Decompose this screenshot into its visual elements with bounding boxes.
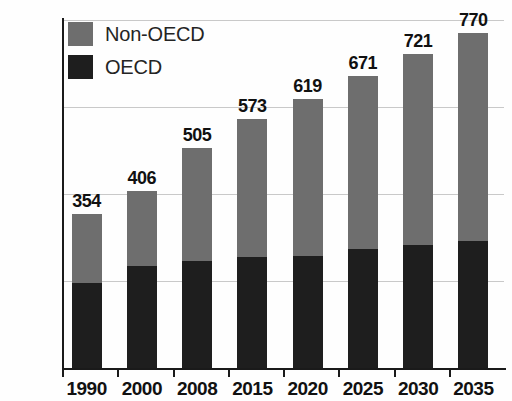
bar-segment-oecd-1990: [72, 283, 102, 368]
x-tick-mark-2000: [117, 368, 119, 377]
legend-item-oecd: OECD: [68, 55, 205, 79]
bar-segment-oecd-2020: [293, 256, 323, 368]
bar-2000[interactable]: 406: [127, 191, 157, 368]
legend-label-oecd: OECD: [105, 56, 162, 79]
bar-segment-non-oecd-2025: [348, 76, 378, 249]
bar-segment-oecd-2035: [458, 241, 488, 368]
bar-segment-oecd-2000: [127, 266, 157, 368]
bar-segment-oecd-2030: [403, 245, 433, 368]
bar-2025[interactable]: 671: [348, 76, 378, 368]
x-tick-mark-2015: [228, 368, 230, 377]
x-tick-label-2025: 2025: [343, 378, 383, 400]
bar-2020[interactable]: 619: [293, 99, 323, 368]
bar-value-label-1990: 354: [72, 191, 101, 212]
bar-segment-non-oecd-2015: [237, 119, 267, 257]
legend-item-non-oecd: Non-OECD: [68, 22, 205, 46]
bar-segment-non-oecd-2020: [293, 99, 323, 256]
bar-2030[interactable]: 721: [403, 54, 433, 368]
y-axis-line: [62, 18, 64, 370]
x-tick-label-2015: 2015: [232, 378, 272, 400]
chart-legend: Non-OECD OECD: [68, 22, 205, 88]
bar-segment-non-oecd-2030: [403, 54, 433, 245]
bar-value-label-2020: 619: [293, 76, 322, 97]
bar-segment-oecd-2025: [348, 249, 378, 368]
bar-1990[interactable]: 354: [72, 214, 102, 368]
x-tick-label-2000: 2000: [122, 378, 162, 400]
x-tick-label-2020: 2020: [287, 378, 327, 400]
bar-segment-oecd-2015: [237, 257, 267, 368]
x-tick-mark-2008: [173, 368, 175, 377]
x-tick-mark-2025: [338, 368, 340, 377]
bar-value-label-2025: 671: [349, 53, 378, 74]
x-tick-mark-2030: [394, 368, 396, 377]
bar-value-label-2035: 770: [459, 10, 488, 31]
bar-2008[interactable]: 505: [182, 148, 212, 368]
bar-value-label-2008: 505: [183, 125, 212, 146]
bar-segment-oecd-2008: [182, 261, 212, 368]
x-tick-label-1990: 1990: [66, 378, 106, 400]
legend-label-non-oecd: Non-OECD: [105, 23, 205, 46]
x-tick-mark-2020: [283, 368, 285, 377]
x-tick-label-2035: 2035: [453, 378, 493, 400]
x-tick-mark-2035: [449, 368, 451, 377]
bar-segment-non-oecd-1990: [72, 214, 102, 283]
gridline-600: [62, 107, 504, 108]
x-tick-label-2030: 2030: [398, 378, 438, 400]
gridline-800: [62, 20, 504, 21]
x-tick-label-2008: 2008: [177, 378, 217, 400]
bar-2035[interactable]: 770: [458, 33, 488, 368]
bar-value-label-2030: 721: [404, 31, 433, 52]
bar-segment-non-oecd-2008: [182, 148, 212, 261]
bar-segment-non-oecd-2000: [127, 191, 157, 266]
bar-value-label-2015: 573: [238, 96, 267, 117]
legend-swatch-oecd: [68, 55, 93, 79]
bar-value-label-2000: 406: [128, 168, 157, 189]
bar-2015[interactable]: 573: [237, 119, 267, 368]
legend-swatch-non-oecd: [68, 22, 93, 46]
bar-segment-non-oecd-2035: [458, 33, 488, 241]
x-tick-mark-1990: [62, 368, 64, 377]
stacked-bar-chart: 354406505573619671721770 0200400600800 1…: [0, 0, 512, 401]
